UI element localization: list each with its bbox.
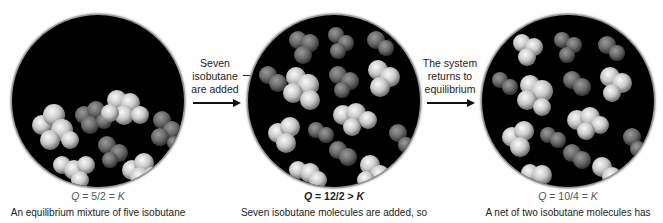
isobutane-molecule	[101, 90, 149, 125]
isobutane-molecule	[333, 103, 377, 136]
arrow-right-icon	[427, 102, 473, 104]
isobutane-molecule	[122, 153, 160, 187]
isobutane-molecule	[563, 71, 591, 96]
isobutane-molecule	[259, 66, 287, 92]
isobutane-molecule	[268, 117, 300, 153]
q-expression-disturbed: Q = 12/2 > K	[234, 190, 434, 202]
note-line: are added	[180, 83, 250, 96]
note-line: returns to	[415, 70, 485, 83]
molecules-initial	[12, 15, 184, 187]
caption-new-equilibrium: A net of two isobutane molecules has	[453, 207, 663, 218]
isobutane-molecule	[368, 60, 400, 97]
isobutane-molecule	[289, 161, 327, 187]
isobutane-molecule	[98, 136, 128, 168]
isobutane-molecule	[53, 156, 95, 187]
butane-molecule	[289, 31, 319, 64]
butane-molecule	[308, 122, 334, 143]
isobutane-molecule	[623, 128, 646, 157]
isobutane-molecule	[283, 67, 320, 110]
caption-initial: An equilibrium mixture of five isobutane	[0, 207, 213, 218]
isobutane-molecule	[592, 157, 622, 187]
flask-disturbed	[248, 15, 420, 187]
butane-molecule	[540, 127, 566, 148]
isobutane-molecule	[329, 66, 359, 98]
molecules-disturbed	[248, 15, 420, 187]
butane-molecule	[598, 36, 625, 61]
transition-note-return: The system returns to equilibrium	[415, 57, 485, 96]
q-expression-initial: Q = 5/2 = K	[0, 190, 198, 202]
isobutane-molecule	[521, 164, 552, 185]
isobutane-molecule	[329, 141, 357, 166]
isobutane-molecule	[389, 124, 414, 153]
flask-new-equilibrium	[482, 15, 654, 187]
arrow-right-icon	[193, 102, 239, 104]
isobutane-molecule	[567, 107, 609, 140]
isobutane-molecule	[513, 34, 543, 66]
isobutane-molecule	[563, 144, 591, 169]
q-expression-new-equilibrium: Q = 10/4 = K	[468, 190, 663, 202]
flask-initial	[12, 15, 184, 187]
isobutane-molecule	[32, 104, 79, 150]
note-line: isobutane	[180, 70, 250, 83]
molecules-new-equilibrium	[482, 15, 654, 187]
transition-note-add: Seven isobutane are added	[180, 57, 250, 96]
note-line: Seven	[180, 57, 250, 70]
isobutane-molecule	[367, 31, 394, 56]
note-line: equilibrium	[415, 83, 485, 96]
caption-disturbed: Seven isobutane molecules are added, so	[219, 207, 449, 218]
note-line: The system	[415, 57, 485, 70]
isobutane-molecule	[328, 27, 354, 59]
isobutane-molecule	[517, 75, 553, 116]
isobutane-molecule	[502, 121, 534, 157]
butane-molecule	[151, 111, 181, 150]
isobutane-molecule	[357, 155, 390, 187]
butane-molecule	[554, 32, 582, 63]
isobutane-molecule	[600, 67, 632, 102]
butane-molecule	[492, 72, 518, 95]
